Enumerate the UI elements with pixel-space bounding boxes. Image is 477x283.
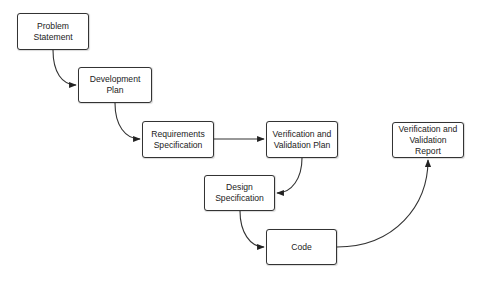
node-requirements-specification[interactable]: RequirementsSpecification (142, 121, 214, 158)
node-verification-validation-plan[interactable]: Verification andValidation Plan (266, 121, 338, 158)
connector-problem-to-devplan (53, 50, 76, 85)
node-label: Development Plan (79, 74, 151, 96)
connector-devplan-to-reqspec (115, 103, 140, 139)
node-label: Verification andValidation Plan (270, 129, 335, 151)
node-label: RequirementsSpecification (148, 129, 208, 151)
node-label: DesignSpecification (212, 182, 267, 204)
node-design-specification[interactable]: DesignSpecification (204, 175, 275, 211)
connector-code-to-vvreport (337, 160, 428, 247)
node-verification-validation-report[interactable]: Verification andValidation Report (392, 122, 464, 158)
node-label: ProblemStatement (30, 21, 75, 43)
connector-vvplan-to-designspec (277, 158, 302, 193)
connector-designspec-to-code (240, 211, 264, 247)
node-development-plan[interactable]: Development Plan (78, 67, 152, 103)
node-problem-statement[interactable]: ProblemStatement (17, 13, 89, 50)
node-label: Code (288, 242, 315, 253)
node-label: Verification andValidation Report (393, 124, 463, 157)
diagram-canvas: ProblemStatement Development Plan Requir… (0, 0, 477, 283)
node-code[interactable]: Code (266, 229, 337, 265)
